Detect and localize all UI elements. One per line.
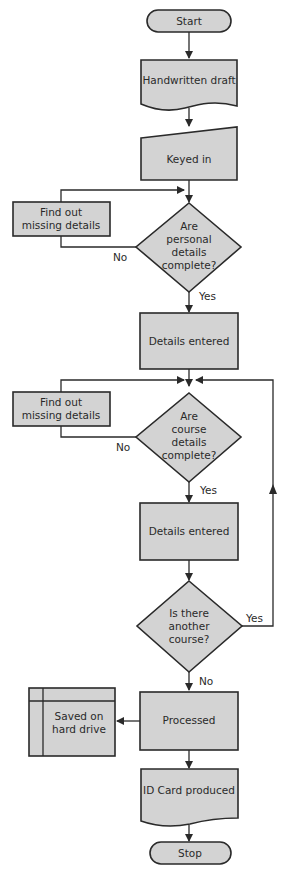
personal-details-decision: Are personal details complete? — [136, 203, 241, 292]
find-out-1-line2: missing details — [22, 219, 101, 231]
course-decision-line2: course — [171, 423, 206, 435]
handwritten-draft-document: Handwritten draft — [141, 60, 237, 110]
processed-label: Processed — [163, 714, 216, 726]
processed-process: Processed — [140, 692, 238, 750]
no-branch-line — [61, 426, 136, 437]
personal-decision-line3: details — [172, 246, 207, 258]
find-out-1-line1: Find out — [40, 206, 82, 218]
course-decision-line4: complete? — [162, 449, 217, 461]
course-yes-label: Yes — [199, 484, 217, 496]
personal-decision-line2: personal — [166, 233, 211, 245]
id-card-produced-document: ID Card produced — [141, 769, 238, 826]
start-label: Start — [176, 15, 202, 27]
another-no-label: No — [199, 675, 213, 687]
flowchart: Start Handwritten draft Keyed in Find ou… — [0, 0, 290, 881]
keyed-in-manual-input: Keyed in — [141, 127, 237, 180]
loop-up-arrowhead — [269, 484, 277, 494]
personal-decision-line1: Are — [180, 220, 198, 232]
find-out-missing-details-2: Find out missing details — [13, 392, 110, 426]
personal-yes-label: Yes — [198, 290, 216, 302]
start-terminator: Start — [147, 10, 231, 32]
find-out-missing-details-1: Find out missing details — [13, 202, 110, 236]
course-decision-line1: Are — [180, 410, 198, 422]
handwritten-draft-label: Handwritten draft — [142, 74, 235, 86]
find-out-2-line2: missing details — [22, 409, 101, 421]
keyed-in-label: Keyed in — [166, 153, 211, 165]
details-entered-2: Details entered — [140, 503, 238, 560]
another-course-decision: Is there another course? — [137, 581, 242, 672]
details-entered-1: Details entered — [140, 313, 238, 369]
stop-terminator: Stop — [150, 842, 231, 864]
saved-line1: Saved on — [55, 710, 104, 722]
another-decision-line2: another — [168, 620, 210, 632]
course-decision-line3: details — [172, 436, 207, 448]
details-entered-1-label: Details entered — [149, 335, 230, 347]
saved-line2: hard drive — [52, 723, 106, 735]
course-no-label: No — [116, 441, 130, 453]
personal-decision-line4: complete? — [162, 259, 217, 271]
id-card-label: ID Card produced — [143, 784, 235, 796]
another-decision-line3: course? — [169, 633, 210, 645]
saved-on-hard-drive-storage: Saved on hard drive — [29, 688, 115, 756]
loop-back-arrow — [61, 190, 184, 202]
details-entered-2-label: Details entered — [149, 525, 230, 537]
personal-no-label: No — [113, 251, 127, 263]
course-details-decision: Are course details complete? — [136, 393, 241, 482]
find-out-2-line1: Find out — [40, 396, 82, 408]
stop-label: Stop — [178, 847, 202, 859]
another-decision-line1: Is there — [169, 607, 209, 619]
loop-back-arrow — [61, 380, 184, 392]
no-branch-line — [61, 236, 136, 247]
another-yes-label: Yes — [245, 612, 263, 624]
